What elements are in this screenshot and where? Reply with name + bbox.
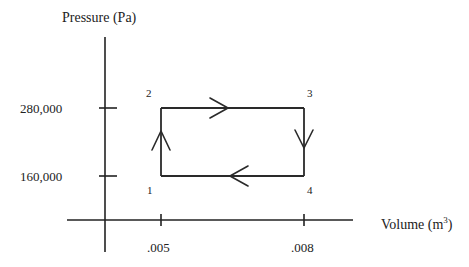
x-axis-label-base: Volume (m [381, 217, 443, 233]
state-label-1: 1 [147, 184, 153, 196]
x-tick-label-0008: .008 [291, 240, 314, 255]
state-label-3: 3 [307, 87, 313, 99]
x-axis-label-close: ) [448, 217, 453, 233]
y-tick-label-280000: 280,000 [20, 101, 62, 116]
state-label-2: 2 [146, 87, 152, 99]
state-label-4: 4 [307, 184, 313, 196]
y-tick-label-160000: 160,000 [20, 169, 62, 184]
x-axis-label: Volume (m3) [381, 215, 453, 233]
x-tick-label-0005: .005 [147, 240, 170, 255]
y-axis-label: Pressure (Pa) [62, 10, 137, 26]
pv-diagram: Pressure (Pa) Volume (m3) 280,000 160,00… [0, 0, 469, 267]
